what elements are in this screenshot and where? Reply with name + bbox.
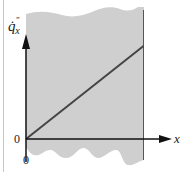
diagram-canvas [0,0,182,172]
y-axis-label-subscript: x [15,25,19,36]
y-axis-label-superscript: ″ [16,15,20,25]
x-axis-arrowhead-icon [159,135,172,143]
figure: q̇″x x 0 0 [0,0,182,172]
shaded-region [26,7,144,165]
x-axis-label: x [174,132,180,145]
y-axis-label: q̇″x [8,16,20,36]
origin-y-label: 0 [14,133,20,145]
origin-x-label: 0 [23,154,29,166]
